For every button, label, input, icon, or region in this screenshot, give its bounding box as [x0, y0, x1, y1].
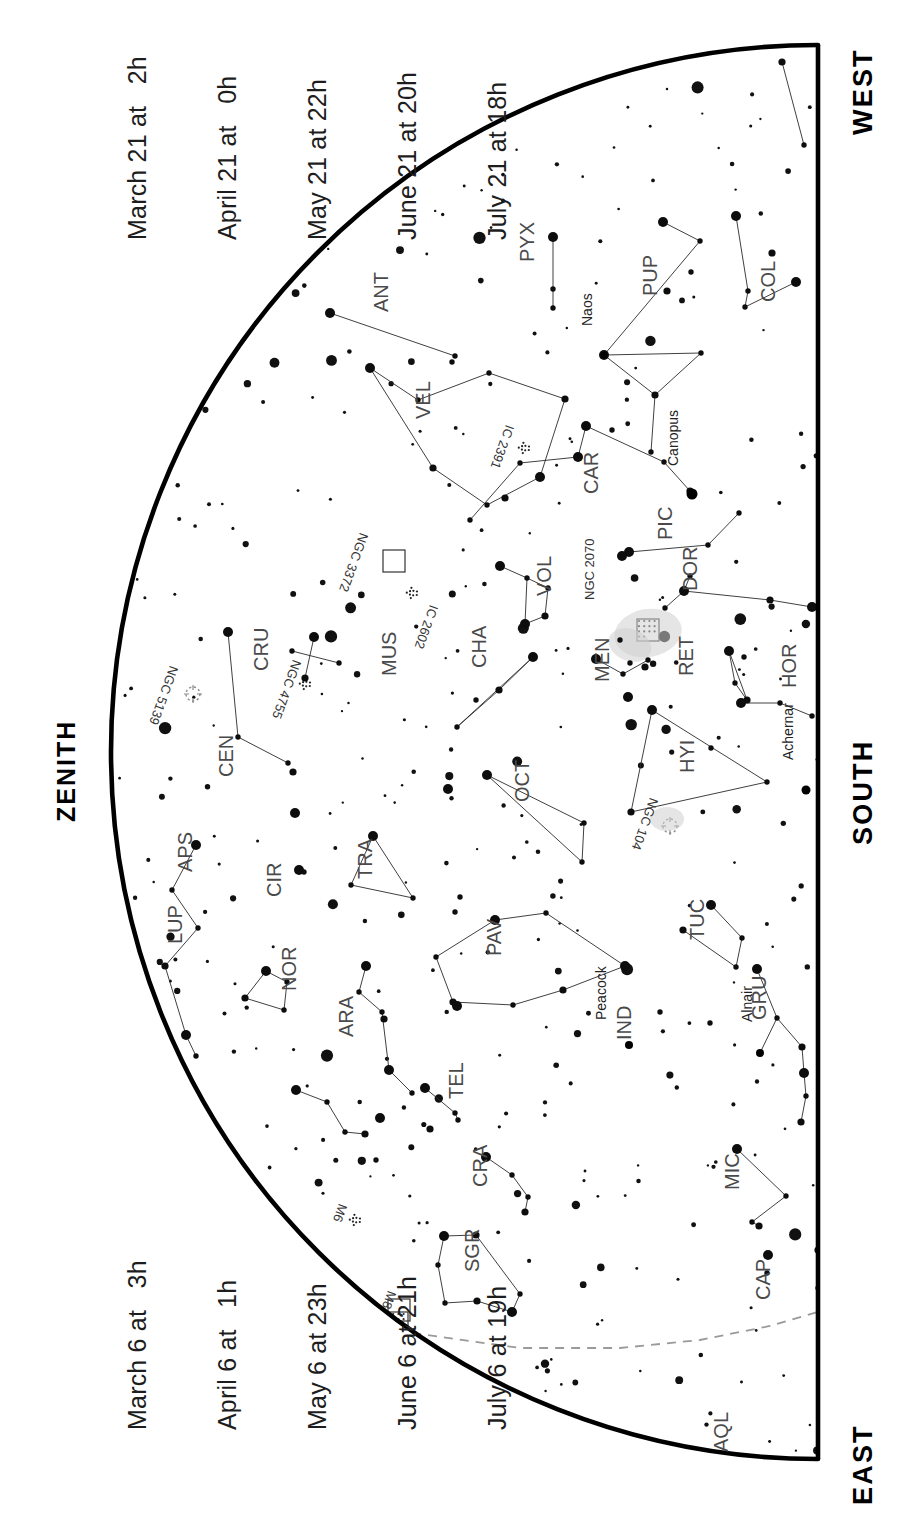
constellation-label-nor: NOR	[278, 947, 300, 991]
dso-label-m6: M6	[330, 1202, 350, 1224]
constellation-label-pic: PIC	[654, 507, 676, 540]
constellation-label-vel: VEL	[412, 381, 434, 419]
constellation-label-cap: CAP	[752, 1259, 774, 1300]
constellation-label-tra: TRA	[354, 838, 376, 879]
constellation-label-ret: RET	[675, 636, 697, 676]
star-label-peacock: Peacock	[593, 965, 609, 1020]
constellation-label-ind: IND	[613, 1006, 635, 1040]
constellation-label-dor: DOR	[679, 547, 701, 591]
legend-bottom-row-2: May 6 at 23h	[302, 1260, 332, 1430]
compass-label-east: EAST	[848, 1424, 879, 1505]
date-time-legend-top: March 21 at 2h April 21 at 0h May 21 at …	[62, 56, 572, 240]
dso-label-ngc-4755: NGC 4755	[269, 658, 304, 721]
constellation-label-mus: MUS	[378, 632, 400, 676]
constellation-label-cha: CHA	[468, 625, 490, 668]
constellation-label-pav: PAV	[483, 918, 505, 956]
constellation-label-ara: ARA	[335, 995, 357, 1037]
constellation-label-cra: CRA	[469, 1144, 491, 1187]
legend-bottom-row-0: March 6 at 3h	[122, 1260, 152, 1430]
dso-label-ngc-5139: NGC 5139	[146, 664, 181, 727]
legend-top-row-0: March 21 at 2h	[122, 56, 152, 240]
legend-top-row-1: April 21 at 0h	[212, 56, 242, 240]
constellation-label-sco: SCO	[153, 1070, 175, 1113]
constellation-label-cru: CRU	[250, 628, 272, 671]
constellation-lines-layer	[165, 62, 812, 1312]
constellation-label-tel: TEL	[445, 1062, 467, 1099]
legend-bottom-row-1: April 6 at 1h	[212, 1260, 242, 1430]
star-label-achernar: Achernar	[780, 703, 796, 760]
date-time-legend-bottom: March 6 at 3h April 6 at 1h May 6 at 23h…	[62, 1260, 572, 1430]
dso-label-ngc-2070: NGC 2070	[582, 539, 597, 600]
dso-label-ngc-3372: NGC 3372	[336, 531, 371, 594]
star-label-canopus: Canopus	[665, 410, 681, 466]
deep-sky-objects-layer	[184, 442, 686, 1334]
constellation-label-cir: CIR	[263, 863, 285, 897]
constellation-label-hyi: HYI	[676, 740, 698, 773]
constellation-label-lup: LUP	[164, 905, 186, 944]
legend-top-row-3: June 21 at 20h	[392, 56, 422, 240]
dso-label-ic-2391: IC 2391	[488, 423, 518, 471]
star-label-naos: Naos	[579, 293, 595, 326]
compass-label-west: WEST	[848, 48, 879, 135]
constellation-label-col: COL	[757, 261, 779, 302]
constellation-label-vol: VOL	[533, 556, 555, 596]
constellation-label-hor: HOR	[778, 644, 800, 688]
constellation-label-ant: ANT	[370, 272, 392, 312]
constellation-label-mic: MIC	[721, 1153, 743, 1190]
constellation-label-men: MEN	[591, 638, 613, 682]
zenith-label: ZENITH	[52, 720, 81, 822]
constellation-label-aql: AQL	[710, 1412, 732, 1452]
constellation-label-car: CAR	[580, 452, 602, 494]
constellation-label-cen: CEN	[215, 735, 237, 777]
constellation-label-oct: OCT	[511, 760, 533, 802]
legend-bottom-row-4: July 6 at 19h	[482, 1260, 512, 1430]
legend-top-row-4: July 21 at 18h	[482, 56, 512, 240]
constellation-stars-layer	[153, 58, 821, 1317]
legend-top-row-2: May 21 at 22h	[302, 56, 332, 240]
legend-bottom-row-3: June 6 at 21h	[392, 1260, 422, 1430]
constellation-label-aps: APS	[174, 832, 196, 872]
star-chart-root: ANTPYXPUPVELCARCOLPICDORMENVOLCHAMUSCRUC…	[0, 0, 902, 1528]
star-label-alnair: Alnair	[739, 986, 755, 1022]
compass-label-south: SOUTH	[848, 740, 879, 846]
constellation-label-pup: PUP	[639, 255, 661, 296]
constellation-label-tuc: TUC	[686, 899, 708, 940]
